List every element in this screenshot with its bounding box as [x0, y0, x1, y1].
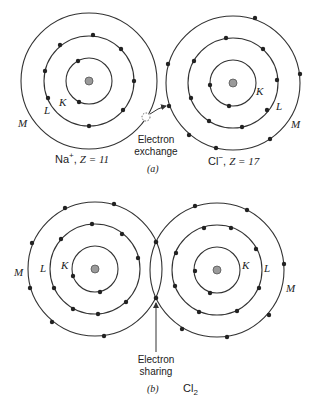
electron	[189, 96, 193, 100]
electron	[180, 327, 184, 331]
electron	[58, 43, 62, 47]
electron	[174, 251, 178, 255]
caption-line: sharing	[133, 366, 179, 378]
electron	[268, 137, 272, 141]
electron	[121, 108, 125, 112]
ion-charge: +	[69, 151, 74, 160]
electron	[265, 108, 269, 112]
electron	[50, 320, 54, 324]
na-ion-atom	[21, 13, 157, 149]
electron	[166, 62, 170, 66]
electron	[192, 59, 196, 63]
electron	[187, 133, 191, 137]
electron	[275, 78, 279, 82]
electron	[197, 310, 201, 314]
electron	[30, 241, 34, 245]
shared-electron	[154, 240, 159, 245]
electron-exchange-caption: Electron exchange	[133, 134, 179, 158]
electron	[63, 206, 67, 210]
cl-k-label: K	[256, 85, 263, 97]
electron	[225, 335, 229, 339]
part-b-tag: (b)	[147, 383, 159, 394]
na-nucleus	[85, 77, 93, 85]
electron	[202, 226, 206, 230]
electron	[261, 47, 265, 51]
electron	[253, 16, 257, 20]
electron	[207, 119, 211, 123]
cl-l-label: L	[276, 100, 282, 112]
shared-electron	[154, 296, 159, 301]
caption-line: Electron	[133, 354, 179, 366]
cl-m-label: M	[291, 118, 300, 130]
electron	[119, 47, 123, 51]
electron	[173, 284, 177, 288]
electron	[208, 83, 212, 87]
electron	[298, 72, 302, 76]
ion-symbol: Na	[55, 153, 69, 165]
electron	[136, 256, 140, 260]
caption-line: Electron	[133, 134, 179, 146]
bonding-diagram	[0, 0, 310, 402]
cl2-left-atom	[28, 202, 162, 338]
ion-symbol: Cl	[208, 155, 218, 167]
electron	[77, 100, 81, 104]
electron	[71, 274, 75, 278]
electron	[227, 104, 231, 108]
electron	[112, 202, 116, 206]
caption-line: exchange	[133, 146, 179, 158]
molecule-symbol: Cl	[183, 382, 193, 394]
molecule-subscript: 2	[193, 388, 197, 397]
electron	[76, 59, 80, 63]
cl-nucleus	[229, 79, 237, 87]
electron	[193, 204, 197, 208]
right-l-label: L	[264, 262, 270, 274]
electron	[120, 232, 124, 236]
right-k-label: K	[242, 259, 249, 271]
right-m-label: M	[286, 282, 295, 294]
electron	[52, 286, 56, 290]
electron	[245, 208, 249, 212]
electron	[254, 247, 258, 251]
electron	[124, 300, 128, 304]
na-l-label: L	[44, 104, 50, 116]
electron	[91, 33, 95, 37]
electron	[193, 269, 197, 273]
na-ion-formula: Na+, Z = 11	[55, 151, 109, 165]
electron	[43, 69, 47, 73]
electron	[229, 226, 233, 230]
electron	[71, 307, 75, 311]
cl-ion-formula: Cl−, Z = 17	[208, 153, 259, 167]
vacated-electron	[142, 113, 150, 121]
atomic-number: Z = 17	[229, 155, 259, 167]
electron	[90, 222, 94, 226]
electron	[28, 286, 32, 290]
electron	[87, 124, 91, 128]
electron	[167, 104, 171, 108]
left-k-label: K	[61, 259, 68, 271]
atomic-number: Z = 11	[80, 153, 109, 165]
electron	[257, 286, 261, 290]
na-m-label: M	[18, 117, 27, 129]
electron	[96, 312, 100, 316]
ion-charge: −	[218, 153, 223, 162]
right-nucleus	[213, 266, 221, 274]
electron-transfer-arrow	[150, 106, 166, 114]
electron	[224, 36, 228, 40]
electron	[267, 313, 271, 317]
electron	[282, 262, 286, 266]
electron	[240, 125, 244, 129]
electron	[214, 146, 218, 150]
electron	[46, 96, 50, 100]
cl2-formula: Cl2	[183, 382, 198, 397]
left-l-label: L	[40, 262, 46, 274]
electron-sharing-caption: Electron sharing	[133, 354, 179, 378]
electron	[98, 290, 102, 294]
left-m-label: M	[14, 266, 23, 278]
electron	[132, 79, 136, 83]
electron	[235, 309, 239, 313]
electron	[102, 334, 106, 338]
left-nucleus	[91, 265, 99, 273]
cl-ion-atom	[166, 16, 302, 150]
part-a-tag: (a)	[147, 163, 159, 174]
electron	[208, 291, 212, 295]
